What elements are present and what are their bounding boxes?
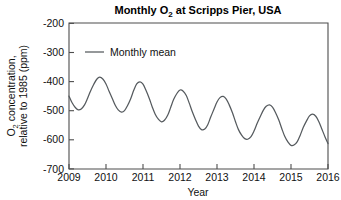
chart-figure: Monthly O2 at Scripps Pier, USA O2 conce… <box>0 0 341 200</box>
x-tick-label: 2013 <box>205 171 229 183</box>
x-tick-label: 2012 <box>168 171 192 183</box>
y-axis-title-line2: relative to 1985 (ppm) <box>17 45 29 147</box>
chart-legend: Monthly mean <box>85 46 176 58</box>
x-tick-label: 2009 <box>57 171 81 183</box>
x-tick-label: 2014 <box>242 171 266 183</box>
y-tick-label: -600 <box>43 133 64 145</box>
y-axis-ticks <box>69 23 74 169</box>
plot-frame <box>69 23 328 169</box>
y-tick-label: -500 <box>43 104 64 116</box>
x-tick-label: 2016 <box>316 171 340 183</box>
x-tick-label: 2015 <box>279 171 303 183</box>
y-tick-label: -300 <box>43 46 64 58</box>
x-axis-ticks <box>69 164 328 169</box>
oxygen-concentration-line-chart: Monthly O2 at Scripps Pier, USA O2 conce… <box>0 0 341 200</box>
legend-label-monthly-mean: Monthly mean <box>110 46 176 58</box>
y-tick-label: -200 <box>43 17 64 29</box>
x-axis-tick-labels: 2009 2010 2011 2012 2013 2014 2015 2016 <box>57 171 340 183</box>
x-axis-title: Year <box>187 186 209 198</box>
x-tick-label: 2011 <box>132 171 155 183</box>
x-tick-label: 2010 <box>94 171 118 183</box>
y-axis-tick-labels: -200 -300 -400 -500 -600 -700 <box>43 17 64 175</box>
chart-title: Monthly O2 at Scripps Pier, USA <box>114 4 281 19</box>
y-tick-label: -400 <box>43 75 64 87</box>
monthly-mean-series-line <box>69 77 328 145</box>
